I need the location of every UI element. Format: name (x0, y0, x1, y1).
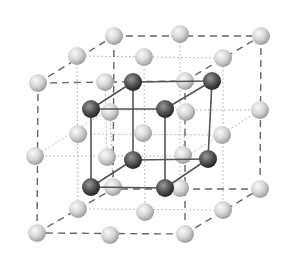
light-atom (101, 226, 119, 244)
light-atom (136, 203, 154, 221)
solid-edge (91, 187, 165, 188)
dark-atom (199, 150, 217, 168)
light-atom (105, 27, 123, 45)
light-atom (213, 126, 231, 144)
dark-atom (82, 100, 100, 118)
solid-edge (133, 159, 208, 160)
light-atom (174, 146, 192, 164)
light-atom (68, 47, 86, 65)
dark-atom (156, 179, 174, 197)
light-atom (177, 103, 195, 121)
light-atom (251, 180, 269, 198)
light-atom (214, 201, 232, 219)
light-atom (96, 73, 114, 91)
light-atoms (26, 25, 270, 244)
light-atom (176, 225, 194, 243)
light-atom (134, 124, 152, 142)
light-atom (251, 101, 269, 119)
crystal-lattice-diagram (0, 0, 297, 264)
light-atom (29, 74, 47, 92)
light-atom (26, 147, 44, 165)
light-atom (171, 25, 189, 43)
solid-edge (208, 81, 212, 159)
light-atom (101, 103, 119, 121)
dark-atom (82, 178, 100, 196)
light-atom (135, 48, 153, 66)
light-atom (214, 49, 232, 67)
light-atom (69, 200, 87, 218)
solid-edge (133, 81, 212, 82)
light-atom (98, 148, 116, 166)
dark-atom (124, 151, 142, 169)
light-atom (28, 224, 46, 242)
dark-atom (156, 100, 174, 118)
light-atom (69, 125, 87, 143)
dark-atom (124, 73, 142, 91)
light-atom (252, 27, 270, 45)
dark-atom (203, 72, 221, 90)
